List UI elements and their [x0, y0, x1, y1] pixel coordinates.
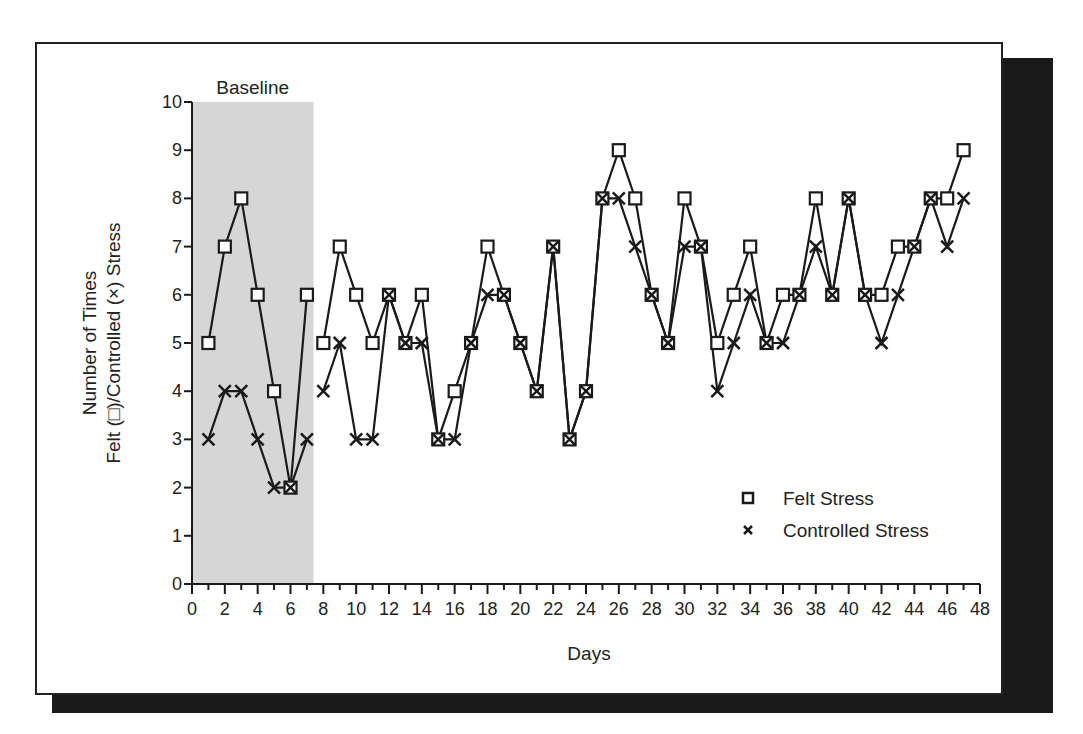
- x-marker-icon: [629, 241, 641, 253]
- x-marker-icon: [728, 337, 740, 349]
- square-marker-icon: [268, 385, 280, 397]
- x-tick-label: 16: [445, 599, 465, 619]
- data-series: [202, 144, 969, 493]
- x-tick-label: 4: [253, 599, 263, 619]
- x-tick-label: 46: [937, 599, 957, 619]
- square-marker-icon: [810, 192, 822, 204]
- x-tick-label: 24: [576, 599, 596, 619]
- y-tick-label: 5: [172, 333, 182, 353]
- x-tick-label: 12: [379, 599, 399, 619]
- square-marker-icon: [202, 337, 214, 349]
- y-tick-label: 1: [172, 526, 182, 546]
- x-tick-label: 40: [839, 599, 859, 619]
- y-tick-label: 3: [172, 429, 182, 449]
- x-tick-label: 30: [674, 599, 694, 619]
- square-marker-icon: [777, 289, 789, 301]
- y-tick-label: 4: [172, 381, 182, 401]
- x-marker-icon: [810, 241, 822, 253]
- square-marker-icon: [317, 337, 329, 349]
- square-marker-icon: [958, 144, 970, 156]
- legend-item-controlled-stress: Controlled Stress: [744, 520, 929, 541]
- y-tick-label: 0: [172, 574, 182, 594]
- y-axis-title-line2: Felt (□)/Controlled (×) Stress: [103, 222, 124, 463]
- square-marker-icon: [301, 289, 313, 301]
- line-chart: Baseline 0123456789100246810121416182022…: [0, 0, 1083, 734]
- x-tick-label: 32: [707, 599, 727, 619]
- square-marker-icon: [711, 337, 723, 349]
- x-tick-label: 22: [543, 599, 563, 619]
- square-marker-icon: [367, 337, 379, 349]
- x-marker-icon: [892, 289, 904, 301]
- square-marker-icon: [252, 289, 264, 301]
- legend-label-felt-stress: Felt Stress: [783, 488, 874, 509]
- x-tick-label: 18: [477, 599, 497, 619]
- square-marker-icon: [334, 241, 346, 253]
- x-tick-label: 42: [871, 599, 891, 619]
- x-tick-label: 10: [346, 599, 366, 619]
- x-tick-label: 36: [773, 599, 793, 619]
- square-marker-icon: [876, 289, 888, 301]
- square-marker-icon: [941, 192, 953, 204]
- x-tick-label: 38: [806, 599, 826, 619]
- legend-item-felt-stress: Felt Stress: [743, 488, 874, 509]
- x-tick-label: 8: [318, 599, 328, 619]
- square-marker-icon: [219, 241, 231, 253]
- chart-legend: Felt Stress Controlled Stress: [743, 488, 929, 541]
- square-marker-icon: [235, 192, 247, 204]
- x-tick-label: 2: [220, 599, 230, 619]
- square-marker-icon: [744, 241, 756, 253]
- x-tick-label: 6: [285, 599, 295, 619]
- x-axis-title: Days: [567, 643, 610, 664]
- x-marker-icon: [941, 241, 953, 253]
- x-tick-label: 0: [187, 599, 197, 619]
- square-marker-icon: [629, 192, 641, 204]
- x-tick-label: 26: [609, 599, 629, 619]
- y-tick-label: 6: [172, 285, 182, 305]
- square-marker-icon: [482, 241, 494, 253]
- x-tick-label: 28: [642, 599, 662, 619]
- x-marker-icon: [744, 526, 752, 534]
- x-marker-icon: [876, 337, 888, 349]
- x-marker-icon: [958, 192, 970, 204]
- x-tick-label: 20: [510, 599, 530, 619]
- y-tick-label: 7: [172, 237, 182, 257]
- x-tick-label: 48: [970, 599, 990, 619]
- y-axis-title-line1: Number of Times: [79, 271, 100, 416]
- square-marker-icon: [350, 289, 362, 301]
- felt-stress-markers: [202, 144, 969, 493]
- y-tick-label: 10: [162, 92, 182, 112]
- y-tick-label: 8: [172, 188, 182, 208]
- x-tick-label: 34: [740, 599, 760, 619]
- square-marker-icon: [613, 144, 625, 156]
- square-marker-icon: [892, 241, 904, 253]
- square-marker-icon: [449, 385, 461, 397]
- square-marker-icon: [679, 192, 691, 204]
- y-tick-label: 2: [172, 478, 182, 498]
- x-marker-icon: [744, 289, 756, 301]
- square-marker-icon: [728, 289, 740, 301]
- x-tick-label: 44: [904, 599, 924, 619]
- square-marker-icon: [743, 493, 753, 503]
- legend-label-controlled-stress: Controlled Stress: [783, 520, 929, 541]
- baseline-phase-label: Baseline: [216, 77, 289, 98]
- x-tick-label: 14: [412, 599, 432, 619]
- y-axis-title: Number of Times Felt (□)/Controlled (×) …: [79, 222, 124, 463]
- y-tick-label: 9: [172, 140, 182, 160]
- x-marker-icon: [317, 385, 329, 397]
- square-marker-icon: [416, 289, 428, 301]
